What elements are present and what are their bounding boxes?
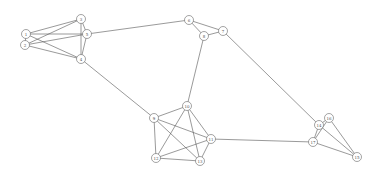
- node-13: 13: [196, 157, 205, 166]
- node-17: 17: [309, 138, 318, 147]
- edge-5-6: [87, 20, 189, 34]
- edge-17-15: [313, 142, 357, 157]
- edge-10-13: [187, 106, 200, 161]
- edge-9-11: [154, 118, 211, 139]
- node-label: 14: [316, 123, 322, 128]
- node-label: 6: [188, 18, 191, 23]
- node-label: 16: [326, 116, 332, 121]
- node-3: 3: [77, 15, 86, 24]
- edge-12-13: [156, 158, 200, 161]
- node-14: 14: [315, 121, 324, 130]
- edge-layer: [25, 19, 357, 161]
- node-label: 11: [208, 137, 213, 142]
- node-label: 10: [184, 104, 190, 109]
- node-6: 6: [185, 16, 194, 25]
- node-label: 4: [80, 57, 83, 62]
- node-4: 4: [77, 55, 86, 64]
- node-label: 17: [310, 140, 316, 145]
- edge-9-12: [154, 118, 156, 158]
- node-label: 7: [222, 29, 225, 34]
- node-2: 2: [21, 41, 30, 50]
- node-label: 5: [86, 32, 89, 37]
- edge-2-4: [25, 45, 81, 59]
- node-label: 15: [354, 155, 360, 160]
- node-label: 1: [25, 32, 28, 37]
- edge-8-10: [187, 36, 204, 106]
- node-9: 9: [150, 114, 159, 123]
- edge-10-12: [156, 106, 187, 158]
- node-label: 3: [80, 17, 83, 22]
- edge-9-10: [154, 106, 187, 118]
- node-10: 10: [183, 102, 192, 111]
- edge-11-17: [211, 139, 313, 142]
- edge-14-15: [319, 125, 357, 157]
- node-12: 12: [152, 154, 161, 163]
- node-8: 8: [200, 32, 209, 41]
- node-15: 15: [353, 153, 362, 162]
- node-label: 12: [153, 156, 159, 161]
- node-5: 5: [83, 30, 92, 39]
- edge-4-9: [81, 59, 154, 118]
- node-label: 2: [24, 43, 27, 48]
- edge-7-14: [223, 31, 319, 125]
- edge-2-5: [25, 34, 87, 45]
- node-label: 13: [197, 159, 203, 164]
- edge-16-15: [329, 118, 357, 157]
- graph-diagram: 1352468791011121314161715: [0, 0, 384, 177]
- node-16: 16: [325, 114, 334, 123]
- node-7: 7: [219, 27, 228, 36]
- edge-9-13: [154, 118, 200, 161]
- node-11: 11: [207, 135, 216, 144]
- node-label: 8: [203, 34, 206, 39]
- node-label: 9: [153, 116, 156, 121]
- edge-1-4: [26, 34, 81, 59]
- node-1: 1: [22, 30, 31, 39]
